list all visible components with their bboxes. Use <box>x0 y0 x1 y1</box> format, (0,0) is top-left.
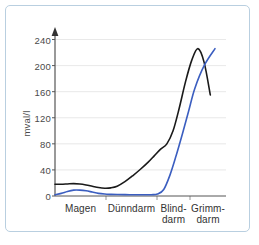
x-label-line2: darm <box>160 214 186 225</box>
x-label-line1: Grimm- <box>191 203 225 214</box>
x-label-blinddarm: Blind-darm <box>160 203 186 225</box>
y-axis-tick-labels: 04080120160200240 <box>12 0 51 245</box>
x-label-duenndarm: Dünndarm <box>108 203 156 214</box>
series-line-blue <box>55 49 215 195</box>
y-tick-label: 120 <box>35 112 51 123</box>
x-label-line1: Dünndarm <box>108 203 156 214</box>
x-label-magen: Magen <box>65 203 96 214</box>
y-tick-label: 0 <box>46 191 51 202</box>
x-label-line2: darm <box>191 214 225 225</box>
gridlines <box>55 40 226 170</box>
x-label-line1: Magen <box>65 203 96 214</box>
chart-figure: 04080120160200240 mval/l MagenDünndarmBl… <box>0 0 259 245</box>
x-label-line1: Blind- <box>160 203 186 214</box>
x-label-grimmdarm: Grimm-darm <box>191 203 225 225</box>
y-tick-label: 200 <box>35 60 51 71</box>
y-axis-title: mval/l <box>21 94 32 154</box>
x-axis-ticks <box>106 196 190 200</box>
y-tick-label: 160 <box>35 86 51 97</box>
y-axis-arrow-icon <box>52 27 59 36</box>
y-tick-label: 40 <box>40 164 51 175</box>
y-tick-label: 240 <box>35 34 51 45</box>
y-tick-label: 80 <box>40 138 51 149</box>
